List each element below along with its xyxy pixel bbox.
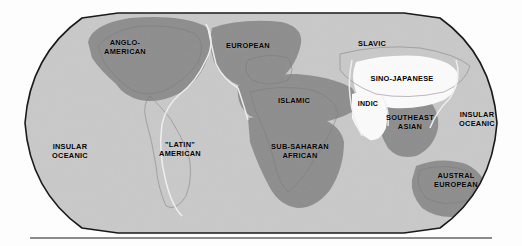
- ocean-base: [0, 0, 522, 246]
- world-cultural-regions-map: ANGLO- AMERICAN EUROPEAN SLAVIC SINO-JAP…: [0, 0, 522, 246]
- map-graphic: [0, 0, 522, 246]
